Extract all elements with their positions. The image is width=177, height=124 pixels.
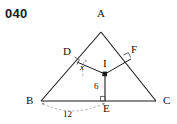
angle-arc-x-arrowhead (84, 59, 87, 61)
vertex-label-b: B (26, 95, 33, 106)
point-label-d: D (63, 46, 71, 57)
incenter-point (102, 72, 107, 77)
segment-if (105, 59, 131, 74)
length-label-12: 12 (63, 110, 72, 119)
measure-arc-be (43, 104, 105, 112)
right-angle-mark-f (123, 53, 130, 58)
point-label-f: F (131, 44, 137, 55)
side-ab (41, 32, 101, 101)
point-label-e: E (103, 103, 110, 114)
problem-figure-page: 040 A (0, 0, 177, 124)
vertex-label-c: C (163, 95, 170, 106)
point-label-i: I (103, 58, 107, 69)
length-label-6: 6 (94, 82, 99, 91)
vertex-label-a: A (97, 8, 105, 19)
side-ac (101, 32, 156, 101)
angle-label-x: x (80, 63, 84, 72)
